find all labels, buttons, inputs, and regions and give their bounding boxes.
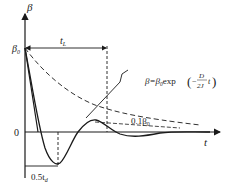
envelope-formula: β=β0exp ( − D 2J t ) — [144, 72, 216, 90]
svg-text:D: D — [198, 72, 204, 80]
beta0-label: β0 — [11, 43, 20, 55]
svg-text:2J: 2J — [197, 82, 205, 90]
damping-diagram: β t 0 β0 tL 0.5td 0.1β0 β=β0exp ( − D 2J… — [0, 0, 228, 192]
svg-text:β=β0exp: β=β0exp — [144, 76, 176, 87]
svg-text:(: ( — [187, 74, 191, 89]
svg-text:t: t — [208, 77, 211, 86]
tL-label: tL — [60, 35, 67, 47]
response-curve — [25, 48, 210, 164]
y-axis-label: β — [26, 1, 33, 13]
half-td-label: 0.5td — [31, 172, 49, 183]
origin-label: 0 — [14, 127, 19, 138]
x-axis-label: t — [204, 136, 208, 148]
envelope-curve — [25, 48, 200, 125]
svg-text:): ) — [212, 74, 216, 89]
